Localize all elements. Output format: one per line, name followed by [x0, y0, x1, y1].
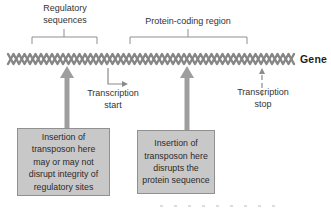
- right-insertion-note-box: Insertion of transposon here disrupts th…: [137, 130, 215, 194]
- right-insertion-arrow: [180, 66, 194, 130]
- gene-transposon-diagram: Regulatory sequences Protein-coding regi…: [0, 0, 331, 209]
- regulatory-sequences-label: Regulatory sequences: [30, 3, 100, 26]
- regulatory-bracket: [32, 29, 97, 44]
- protein-coding-region-label: Protein-coding region: [127, 16, 249, 28]
- left-insertion-note-box: Insertion of transposon here may or may …: [17, 128, 110, 196]
- cropped-print-artifact: [160, 205, 280, 207]
- dna-helix: [8, 54, 294, 64]
- transcription-start-label: Transcription start: [78, 88, 148, 111]
- gene-label: Gene: [300, 53, 327, 65]
- protein-region-bracket: [130, 29, 247, 44]
- transcription-start-arrow: [108, 68, 128, 87]
- transcription-stop-label: Transcription stop: [228, 87, 298, 110]
- left-insertion-arrow: [60, 66, 74, 128]
